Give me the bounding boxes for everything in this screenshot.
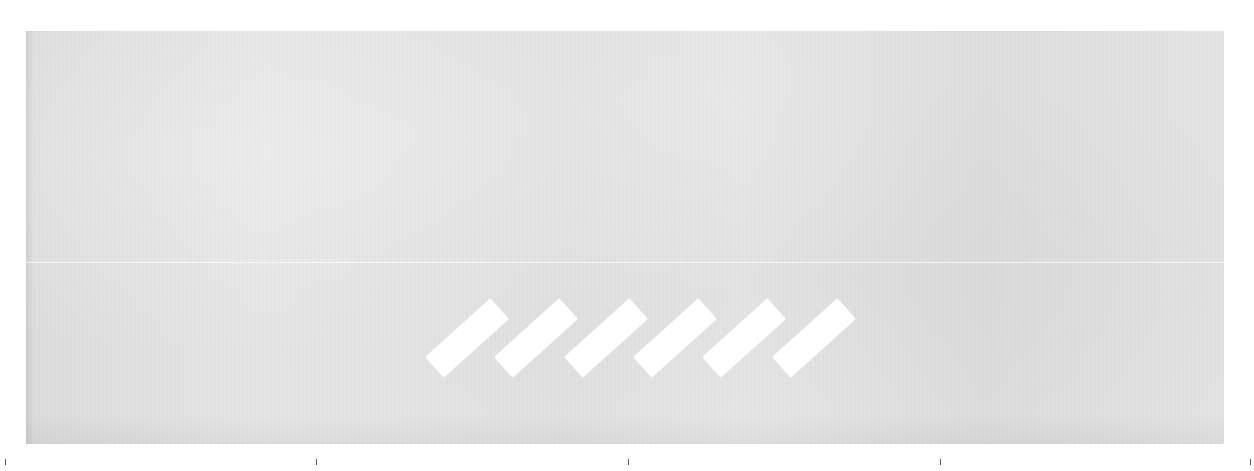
tick-mark: [5, 459, 6, 465]
tick-mark: [940, 459, 941, 465]
tick-mark: [628, 459, 629, 465]
tick-mark: [1250, 459, 1251, 465]
tick-mark: [316, 459, 317, 465]
seam-line: [26, 262, 1224, 263]
hem-fold: [26, 414, 1224, 444]
fabric-swatch: [26, 31, 1224, 444]
